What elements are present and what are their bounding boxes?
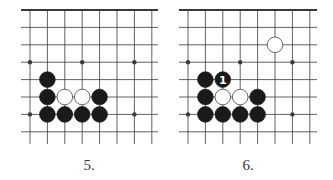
white-stone-icon: [232, 89, 248, 105]
black-stone-icon: [198, 89, 214, 105]
star-point-icon: [238, 60, 242, 64]
star-point-icon: [290, 112, 294, 116]
move-number-label: 1: [219, 74, 227, 87]
black-stone-icon: [198, 107, 214, 123]
black-stone-icon: [232, 107, 248, 123]
black-stone-icon: [215, 107, 231, 123]
diagram-caption-6: 6.: [228, 157, 268, 174]
star-point-icon: [290, 60, 294, 64]
white-stone-icon: [267, 37, 283, 53]
star-point-icon: [186, 60, 190, 64]
black-stone-icon: [250, 89, 266, 105]
star-point-icon: [186, 112, 190, 116]
black-stone-icon: [198, 72, 214, 88]
white-stone-icon: [215, 89, 231, 105]
black-stone-icon: [250, 107, 266, 123]
go-board-6: 1: [0, 0, 333, 180]
